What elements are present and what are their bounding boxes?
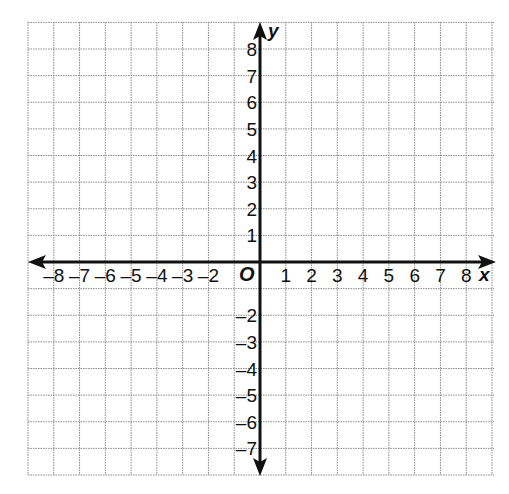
x-tick-label: 6 [409, 265, 420, 286]
x-tick-label: –7 [69, 265, 90, 286]
x-tick-label: 4 [358, 265, 369, 286]
y-axis-label: y [267, 20, 280, 41]
y-tick-label: –4 [236, 359, 258, 380]
x-tick-label: 3 [332, 265, 343, 286]
x-axis-label: x [478, 264, 491, 285]
y-tick-label: 4 [246, 146, 257, 167]
y-tick-label: 6 [246, 92, 257, 113]
y-tick-label: 1 [246, 225, 257, 246]
y-tick-label: –2 [236, 305, 257, 326]
y-tick-label: –7 [236, 438, 257, 459]
x-tick-label: 8 [461, 265, 472, 286]
y-tick-label: 2 [246, 199, 257, 220]
origin-label: O [239, 263, 255, 285]
x-tick-label: 5 [384, 265, 395, 286]
x-tick-label: –5 [121, 265, 142, 286]
y-tick-label: 7 [246, 66, 257, 87]
x-tick-label: –6 [95, 265, 116, 286]
x-tick-label: –2 [198, 265, 219, 286]
x-tick-label: –8 [43, 265, 64, 286]
y-tick-label: 8 [246, 39, 257, 60]
tick-labels: –8–7–6–5–4–3–21234567887654321–2–3–4–5–6… [43, 39, 471, 459]
y-tick-label: –3 [236, 332, 257, 353]
y-tick-label: –6 [236, 412, 257, 433]
y-tick-label: 5 [246, 119, 257, 140]
y-tick-label: 3 [246, 172, 257, 193]
x-tick-label: –3 [172, 265, 193, 286]
x-tick-label: 1 [280, 265, 291, 286]
x-tick-label: –4 [146, 265, 168, 286]
x-tick-label: 7 [435, 265, 446, 286]
axes [28, 22, 496, 476]
y-tick-label: –5 [236, 385, 257, 406]
x-tick-label: 2 [306, 265, 317, 286]
coordinate-plane: –8–7–6–5–4–3–21234567887654321–2–3–4–5–6… [0, 0, 509, 494]
